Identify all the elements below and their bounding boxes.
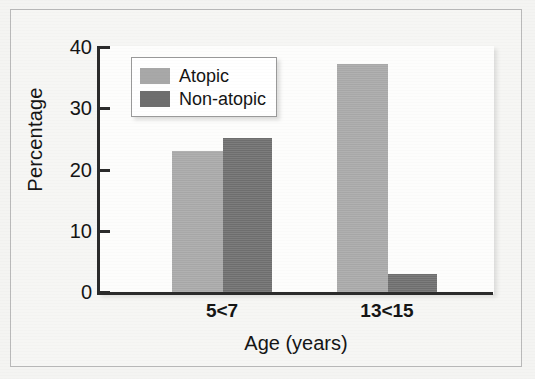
y-axis-tick-label-10: 10 <box>48 221 92 241</box>
figure-page: 40 30 20 10 0 Percentage Age (years) 5<7… <box>0 0 535 379</box>
x-axis-tick-label-group-2: 13<15 <box>317 300 457 322</box>
x-axis-tick-label-group-1: 5<7 <box>152 300 292 322</box>
x-axis-title: Age (years) <box>98 332 494 355</box>
legend-label-non-atopic: Non-atopic <box>179 90 266 108</box>
legend: Atopic Non-atopic <box>131 57 277 117</box>
legend-swatch-non-atopic <box>140 91 170 107</box>
y-axis-tick-label-20: 20 <box>48 160 92 180</box>
y-axis-tick-label-0: 0 <box>48 282 92 302</box>
bar-atopic-13-15 <box>337 64 388 292</box>
legend-item-non-atopic: Non-atopic <box>140 87 266 110</box>
bar-non-atopic-13-15 <box>388 274 437 292</box>
y-axis-tick-label-40: 40 <box>48 37 92 57</box>
legend-swatch-atopic <box>140 68 170 84</box>
bar-atopic-5-7 <box>172 151 223 292</box>
x-axis-line <box>97 292 493 295</box>
bar-non-atopic-5-7 <box>223 138 272 292</box>
legend-label-atopic: Atopic <box>179 67 229 85</box>
y-axis-title: Percentage <box>24 45 47 235</box>
legend-item-atopic: Atopic <box>140 64 266 87</box>
y-axis-tick-label-30: 30 <box>48 98 92 118</box>
y-axis-tick-labels: 40 30 20 10 0 <box>44 0 92 379</box>
